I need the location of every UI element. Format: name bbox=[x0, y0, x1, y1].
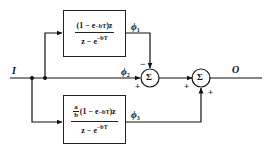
sigma-2: Σ bbox=[197, 73, 203, 82]
upper-transfer-block: (1 − e−bT)z z − e−bT bbox=[63, 10, 126, 57]
phi2-label: ϕ2 bbox=[121, 67, 130, 78]
upper-denominator: z − e−bT bbox=[81, 33, 107, 46]
coef-b: b bbox=[74, 112, 78, 119]
phi3-sub: 3 bbox=[137, 115, 140, 121]
phi1-label: ϕ1 bbox=[131, 22, 140, 33]
lower-transfer-function: ab(1 − e−bT)z z − e−bT bbox=[71, 104, 117, 135]
lower-num-text: (1 − e bbox=[80, 107, 99, 116]
phi1-sub: 1 bbox=[137, 27, 140, 33]
lower-den-exp: −bT bbox=[97, 124, 108, 130]
phi3-label: ϕ3 bbox=[131, 110, 140, 121]
a-over-b: ab bbox=[73, 104, 79, 119]
lower-den-text: z − e bbox=[81, 126, 97, 135]
branch-dot-upper bbox=[43, 76, 47, 80]
phi2-sub: 2 bbox=[127, 72, 130, 78]
lower-denominator: z − e−bT bbox=[81, 122, 107, 135]
input-label: I bbox=[12, 66, 16, 76]
upper-num-exp: −bT bbox=[95, 23, 106, 29]
sigma-1: Σ bbox=[146, 73, 152, 82]
sum2-plus-sign-bottom: + bbox=[208, 88, 213, 97]
upper-numerator: (1 − e−bT)z bbox=[75, 21, 115, 33]
lower-transfer-block: ab(1 − e−bT)z z − e−bT bbox=[63, 95, 126, 144]
sum1-minus-sign: − bbox=[140, 60, 145, 69]
lower-numerator: ab(1 − e−bT)z bbox=[71, 104, 117, 122]
upper-branch-line bbox=[45, 33, 62, 78]
output-label: O bbox=[232, 65, 239, 75]
phi1-line bbox=[126, 33, 150, 68]
upper-den-text: z − e bbox=[81, 37, 97, 46]
sum1-plus-sign: + bbox=[135, 82, 140, 91]
upper-transfer-function: (1 − e−bT)z z − e−bT bbox=[75, 21, 115, 46]
lower-num-exp: −bT bbox=[99, 109, 110, 115]
sum2-plus-sign-left: + bbox=[184, 82, 189, 91]
upper-den-exp: −bT bbox=[97, 35, 108, 41]
lower-branch-line bbox=[32, 78, 62, 122]
lower-num-tail: )z bbox=[109, 107, 115, 116]
branch-dot-lower bbox=[30, 76, 34, 80]
upper-num-text: (1 − e bbox=[77, 21, 96, 30]
upper-num-tail: )z bbox=[106, 21, 112, 30]
